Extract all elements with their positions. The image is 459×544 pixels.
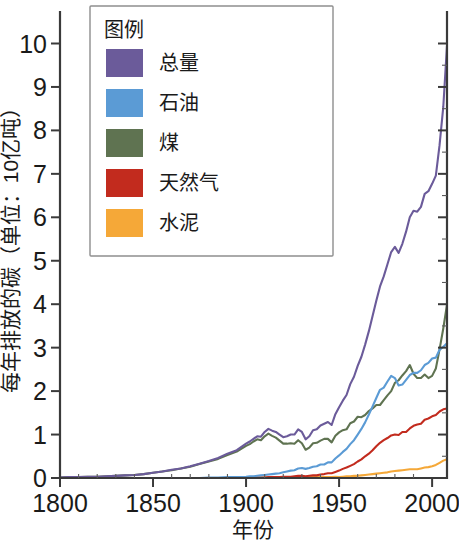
x-axis-tick-labels: 18001850190019502000: [32, 489, 459, 517]
y-tick-label: 7: [33, 160, 47, 188]
legend-label-煤: 煤: [159, 132, 179, 154]
legend-entry-天然气[interactable]: 天然气: [106, 169, 219, 197]
legend-swatch-石油: [106, 89, 143, 117]
y-tick-label: 8: [33, 116, 47, 144]
x-tick-label: 1950: [311, 489, 367, 517]
x-tick-label: 1800: [32, 489, 88, 517]
x-tick-label: 1850: [125, 489, 181, 517]
y-tick-label: 5: [33, 247, 47, 275]
y-axis-title: 每年排放的碳（单位：10亿吨）: [0, 97, 22, 393]
legend-label-总量: 总量: [159, 52, 199, 74]
legend-label-天然气: 天然气: [159, 172, 219, 194]
legend-swatch-水泥: [106, 209, 143, 237]
y-tick-label: 10: [19, 30, 47, 58]
emissions-line-chart: 012345678910 18001850190019502000 年份 每年排…: [0, 0, 459, 544]
legend-swatch-总量: [106, 49, 143, 77]
legend-swatch-煤: [106, 129, 143, 157]
legend-entry-煤[interactable]: 煤: [106, 129, 179, 157]
legend-label-水泥: 水泥: [159, 212, 199, 234]
x-axis-ticks: [60, 478, 432, 487]
legend: 图例 总量石油煤天然气水泥: [90, 6, 333, 256]
y-axis-ticks: [51, 44, 60, 479]
x-tick-label: 1900: [218, 489, 274, 517]
y-tick-label: 3: [33, 334, 47, 362]
y-tick-label: 1: [33, 421, 47, 449]
y-tick-label: 9: [33, 73, 47, 101]
legend-label-石油: 石油: [159, 92, 199, 114]
y-tick-label: 2: [33, 377, 47, 405]
legend-title: 图例: [104, 19, 144, 41]
y-tick-label: 6: [33, 203, 47, 231]
y-tick-label: 0: [33, 464, 47, 492]
y-axis-tick-labels: 012345678910: [19, 30, 47, 493]
legend-swatch-天然气: [106, 169, 143, 197]
x-axis-title: 年份: [232, 518, 274, 541]
x-tick-label: 2000: [404, 489, 459, 517]
y-tick-label: 4: [33, 290, 47, 318]
